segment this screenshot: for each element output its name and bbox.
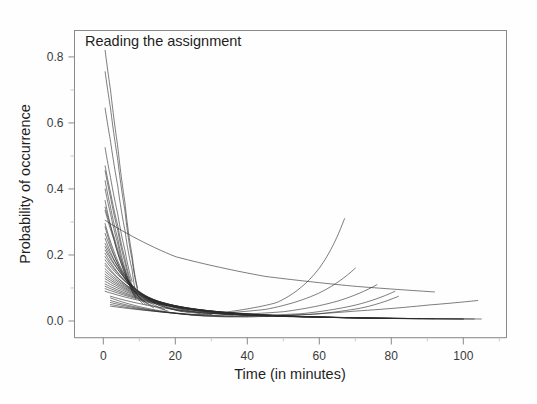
- x-tick-label: 80: [385, 349, 399, 363]
- y-tick-label: 0.4: [47, 182, 64, 196]
- figure-background: [0, 0, 537, 404]
- chart-figure: Reading the assignment 0.00.20.40.60.8 0…: [0, 0, 537, 404]
- x-tick-label: 100: [453, 349, 473, 363]
- y-axis-title: Probability of occurrence: [17, 104, 33, 264]
- x-tick-label: 60: [313, 349, 327, 363]
- x-tick-label: 20: [169, 349, 183, 363]
- y-tick-label: 0.2: [47, 248, 64, 262]
- y-tick-label: 0.0: [47, 314, 64, 328]
- x-tick-label: 0: [100, 349, 107, 363]
- panel-title: Reading the assignment: [85, 33, 241, 49]
- y-tick-label: 0.8: [47, 50, 64, 64]
- y-tick-label: 0.6: [47, 116, 64, 130]
- x-tick-label: 40: [241, 349, 255, 363]
- x-axis-title: Time (in minutes): [234, 366, 345, 382]
- chart-canvas: Reading the assignment 0.00.20.40.60.8 0…: [0, 0, 537, 404]
